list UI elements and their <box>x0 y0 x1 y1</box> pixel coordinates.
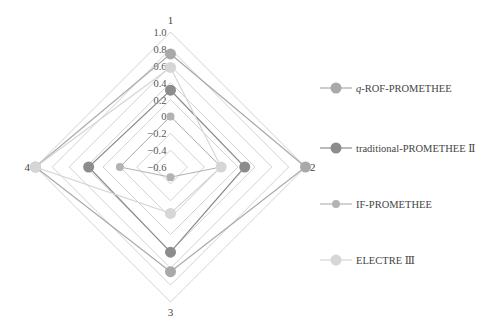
data-point-marker <box>165 208 176 219</box>
data-point-marker <box>216 162 227 173</box>
data-point-marker <box>165 85 176 96</box>
legend-label: traditional-PROMETHEE Ⅱ <box>356 143 475 154</box>
legend-label: ELECTRE Ⅲ <box>356 255 415 266</box>
data-point-marker <box>30 162 41 173</box>
legend-marker-icon <box>331 83 342 94</box>
data-point-marker <box>300 162 311 173</box>
tick-label: 0.8 <box>153 44 166 55</box>
data-point-marker <box>165 48 176 59</box>
tick-label: −0.4 <box>147 145 167 156</box>
legend-marker-icon <box>331 143 342 154</box>
radial-tick-labels: 1.00.80.60.40.20−0.2−0.4−0.6 <box>147 27 167 173</box>
legend-marker-icon <box>331 255 342 266</box>
tick-label: 1.0 <box>153 27 166 38</box>
legend-marker-icon <box>332 200 340 208</box>
legend-item: traditional-PROMETHEE Ⅱ <box>320 143 475 155</box>
legend-label: IF-PROMETHEE <box>356 199 432 210</box>
axis-label-3: 3 <box>168 306 174 318</box>
data-point-marker <box>167 173 175 181</box>
tick-label: −0.6 <box>147 162 166 173</box>
grid-ring <box>120 116 221 217</box>
data-point-marker <box>165 266 176 277</box>
data-point-marker <box>116 163 124 171</box>
axis-label-4: 4 <box>25 161 31 173</box>
legend-item: IF-PROMETHEE <box>320 199 432 210</box>
radar-chart: 1.00.80.60.40.20−0.2−0.4−0.6 1234 q-ROF-… <box>0 0 490 329</box>
legend-label: q-ROF-PROMETHEE <box>356 83 452 94</box>
legend: q-ROF-PROMETHEEtraditional-PROMETHEE ⅡIF… <box>320 83 475 267</box>
data-point-marker <box>167 112 175 120</box>
data-point-marker <box>165 247 176 258</box>
legend-item: q-ROF-PROMETHEE <box>320 83 452 95</box>
axis-label-1: 1 <box>168 14 174 26</box>
legend-item: ELECTRE Ⅲ <box>320 255 415 267</box>
data-point-marker <box>239 162 250 173</box>
data-point-marker <box>165 62 176 73</box>
data-point-marker <box>83 162 94 173</box>
series-line <box>120 116 221 177</box>
